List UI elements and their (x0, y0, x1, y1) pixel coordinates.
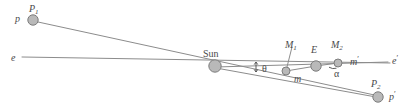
label-theta: θ (262, 64, 267, 74)
body-P2 (373, 92, 383, 102)
label-m-prime: m′ (350, 57, 359, 67)
label-alpha: α (334, 69, 339, 79)
label-e: e (11, 53, 15, 63)
figure-canvas: P1 p e Sun M1 m E M2 α m′ θ e′ P2 p′ (0, 0, 414, 111)
label-m: m (294, 74, 301, 84)
m1-leader-line (287, 47, 292, 67)
label-P2: P2 (371, 79, 381, 89)
body-P1 (28, 15, 38, 25)
label-p: p (15, 14, 20, 24)
label-M2: M2 (331, 40, 343, 50)
sun-to-mprime-line (216, 62, 388, 67)
theta-extent-arrow (254, 62, 258, 72)
body-M1 (282, 67, 290, 75)
body-E (311, 61, 321, 71)
label-M1: M1 (285, 40, 297, 50)
label-E: E (311, 45, 317, 55)
p1-to-p2-sight-line (38, 22, 379, 96)
body-Sun (209, 60, 221, 72)
body-M2 (334, 59, 342, 67)
label-P1: P1 (29, 4, 39, 14)
label-e-prime: e′ (392, 56, 398, 66)
label-p-prime: p′ (389, 92, 396, 102)
label-sun: Sun (203, 49, 219, 59)
